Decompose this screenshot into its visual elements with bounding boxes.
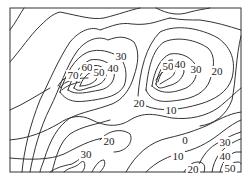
- contour-label-low-20: 20: [188, 163, 200, 175]
- contour-label-valley-0: 0: [182, 134, 188, 146]
- contour-label-lower-left-30: 30: [81, 148, 93, 160]
- contour-labels: 7060504030504030202010010202030304050: [66, 50, 237, 175]
- contour-label-corner-30: 30: [220, 136, 232, 148]
- contour-label-right-20: 20: [212, 65, 224, 77]
- contour-label-low-10: 10: [173, 150, 185, 162]
- contour-label-mid-10: 10: [166, 104, 178, 116]
- contour-label-lower-left-20: 20: [104, 135, 116, 147]
- contour-label-peak-left-40: 40: [108, 62, 120, 74]
- contour-label-corner-50: 50: [225, 162, 237, 174]
- contour-lines: [10, 8, 241, 172]
- contour-label-peak-left-60: 60: [82, 61, 94, 73]
- contour-label-corner-40: 40: [220, 150, 232, 162]
- contour-label-top-30: 30: [116, 50, 128, 62]
- contour-label-peak-right-40: 40: [175, 58, 187, 70]
- contour-map: 7060504030504030202010010202030304050: [0, 0, 252, 181]
- contour-label-peak-right-50: 50: [163, 60, 175, 72]
- contour-label-mid-20: 20: [134, 97, 146, 109]
- contour-label-peak-left-70: 70: [68, 69, 80, 81]
- contour-label-peak-right-30: 30: [191, 63, 203, 75]
- contour-label-peak-left-50: 50: [94, 66, 106, 78]
